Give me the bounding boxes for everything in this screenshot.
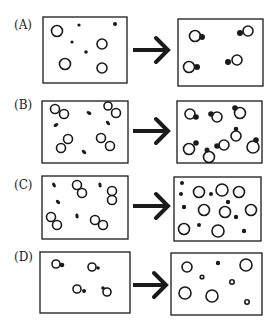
dot-particle: [208, 111, 214, 117]
dash-particle: [105, 120, 111, 126]
before-particles: [51, 102, 121, 155]
ring-particle: [51, 105, 60, 114]
ring-particle: [243, 26, 253, 36]
ring-particle: [194, 187, 205, 198]
dot-particle: [199, 34, 205, 40]
ring-particle: [60, 59, 71, 70]
ring-particle: [204, 152, 215, 163]
dot-particle: [182, 205, 186, 209]
ring-particle: [179, 287, 191, 299]
ring-particle: [247, 141, 259, 153]
ring-particle: [53, 221, 62, 230]
ring-particle: [246, 205, 257, 216]
before-particles: [52, 22, 118, 73]
panel-row-d: (D): [14, 250, 262, 315]
ring-particle: [190, 31, 201, 42]
dot-particle: [197, 223, 201, 227]
ring-particle: [104, 102, 112, 110]
ring-particle: [232, 55, 242, 65]
dot-particle: [60, 263, 65, 268]
panel-row-a: (A): [14, 17, 263, 86]
dot-particle: [84, 50, 88, 54]
ring-particle: [108, 187, 117, 196]
dot-particle: [193, 114, 199, 120]
ring-particle: [52, 26, 63, 37]
panel-label: (D): [14, 250, 33, 264]
dot-particle: [194, 64, 200, 70]
ring-particle: [179, 224, 190, 235]
after-particles: [179, 181, 257, 237]
before-particles: [47, 181, 117, 230]
dot-particle: [113, 22, 117, 26]
dot-particle: [214, 143, 220, 149]
panel-label: (A): [14, 18, 32, 32]
diagram-canvas: (A)(B)(C)(D): [0, 0, 279, 329]
dash-particle: [55, 199, 61, 205]
dot-particle: [232, 105, 238, 111]
dot-particle: [225, 59, 231, 65]
ring-particle: [97, 134, 106, 143]
ring-particle: [184, 144, 195, 155]
after-particles: [184, 26, 254, 73]
arrow-right-icon: [133, 273, 166, 297]
dot-particle: [237, 30, 243, 36]
dot-particle: [242, 229, 246, 233]
dot-particle: [234, 127, 239, 132]
ring-particle: [47, 213, 56, 222]
dot-particle: [70, 40, 73, 43]
dot-particle: [253, 137, 259, 143]
ring-particle: [231, 131, 241, 141]
arrow-right-icon: [133, 194, 168, 218]
dot-particle: [205, 148, 210, 153]
after-particles: [184, 105, 260, 162]
ring-particle: [112, 109, 121, 118]
ring-particle: [220, 207, 231, 218]
ring-particle: [184, 62, 195, 73]
ring-particle: [216, 184, 228, 196]
dot-particle: [234, 215, 238, 219]
dot-particle: [179, 192, 183, 196]
before-particles: [52, 260, 111, 296]
ring-particle: [206, 290, 218, 302]
ring-particle: [99, 221, 108, 230]
ring-particle: [219, 140, 229, 150]
dot-particle: [193, 140, 199, 146]
ring-particle: [73, 285, 81, 293]
dash-particle: [53, 122, 59, 127]
ring-particle: [106, 142, 115, 151]
arrow-right-icon: [133, 119, 168, 143]
dot-particle: [216, 261, 220, 265]
dot-particle: [209, 192, 213, 196]
dot-particle: [82, 289, 86, 293]
ring-particle: [200, 275, 204, 279]
ring-particle: [245, 300, 249, 304]
dot-particle: [101, 286, 105, 290]
ring-particle: [97, 39, 107, 49]
dot-particle: [96, 266, 100, 270]
dash-particle: [81, 149, 87, 155]
dot-particle: [180, 181, 184, 185]
panel-label: (B): [14, 98, 32, 112]
ring-particle: [88, 263, 96, 271]
ring-particle: [240, 259, 252, 271]
dot-particle: [226, 200, 230, 204]
ring-particle: [212, 225, 224, 237]
ring-particle: [182, 262, 192, 272]
ring-particle: [52, 260, 60, 268]
ring-particle: [60, 110, 69, 119]
dash-particle: [86, 110, 92, 115]
dot-particle: [77, 23, 80, 26]
panel-row-b: (B): [14, 98, 262, 163]
ring-particle: [64, 135, 73, 144]
panel-label: (C): [14, 178, 33, 192]
ring-particle: [230, 280, 234, 284]
dash-particle: [75, 213, 79, 219]
ring-particle: [199, 205, 210, 216]
ring-particle: [234, 187, 245, 198]
after-particles: [179, 259, 252, 304]
before-box: [43, 17, 127, 83]
after-box: [178, 19, 263, 86]
panel-row-c: (C): [14, 176, 261, 241]
ring-particle: [57, 144, 66, 153]
arrow-right-icon: [133, 38, 168, 62]
